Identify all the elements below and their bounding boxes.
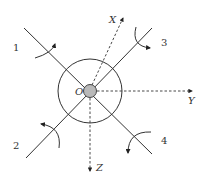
x-axis-arrow <box>92 18 123 85</box>
rotor-label-3: 3 <box>161 37 167 48</box>
rotor-label-1: 1 <box>13 42 19 53</box>
center-label: O <box>75 86 83 97</box>
y-axis-label: Y <box>188 95 196 106</box>
rotation-arrow-2-icon <box>41 124 59 148</box>
rotor-label-4: 4 <box>161 135 167 146</box>
z-axis-label: Z <box>95 162 104 173</box>
rotor-label-2: 2 <box>13 140 19 151</box>
quadrotor-diagram: O X Y Z 1 2 3 4 <box>0 0 209 182</box>
hub-mass-icon <box>84 85 97 98</box>
diagram-svg: O X Y Z 1 2 3 4 <box>0 0 209 182</box>
x-axis-label: X <box>108 14 117 25</box>
